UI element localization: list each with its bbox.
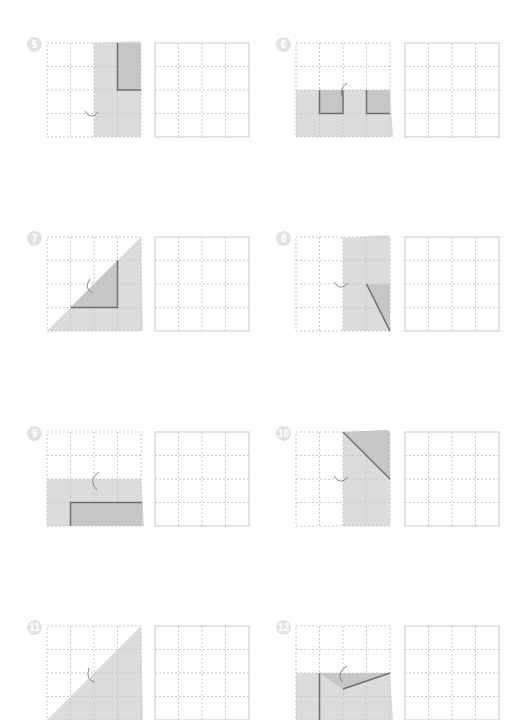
fold-diagram [296, 43, 390, 137]
fold-diagram [47, 237, 141, 331]
problem-number-badge: 10 [276, 426, 291, 441]
problem-number-badge: 5 [27, 37, 42, 52]
problem-9: 9 [27, 426, 277, 526]
fold-diagram [296, 626, 390, 720]
fold-diagram [47, 432, 141, 526]
problem-number-badge: 12 [276, 620, 291, 635]
problem-number-badge: 7 [27, 231, 42, 246]
problem-6: 6 [276, 37, 524, 137]
paper-fold-figure [47, 43, 141, 137]
problem-number-badge: 8 [276, 231, 291, 246]
problem-5: 5 [27, 37, 277, 137]
problem-12: 12 [276, 620, 524, 720]
paper-fold-figure [47, 237, 141, 331]
paper-fold-figure [296, 626, 390, 720]
paper-fold-figure [47, 626, 141, 720]
problem-number-badge: 6 [276, 37, 291, 52]
fold-diagram [296, 432, 390, 526]
answer-grid[interactable] [155, 43, 249, 137]
paper-fold-figure [47, 432, 141, 526]
answer-grid[interactable] [155, 432, 249, 526]
problem-number-badge: 11 [27, 620, 42, 635]
answer-grid[interactable] [405, 43, 499, 137]
problem-number-badge: 9 [27, 426, 42, 441]
paper-fold-figure [296, 432, 390, 526]
paper-fold-figure [296, 237, 390, 331]
problem-8: 8 [276, 231, 524, 331]
problem-11: 11 [27, 620, 277, 720]
answer-grid[interactable] [405, 432, 499, 526]
fold-diagram [47, 626, 141, 720]
answer-grid[interactable] [405, 237, 499, 331]
answer-grid[interactable] [155, 626, 249, 720]
fold-diagram [47, 43, 141, 137]
problem-7: 7 [27, 231, 277, 331]
fold-diagram [296, 237, 390, 331]
answer-grid[interactable] [155, 237, 249, 331]
problem-10: 10 [276, 426, 524, 526]
paper-fold-figure [296, 43, 390, 137]
answer-grid[interactable] [405, 626, 499, 720]
